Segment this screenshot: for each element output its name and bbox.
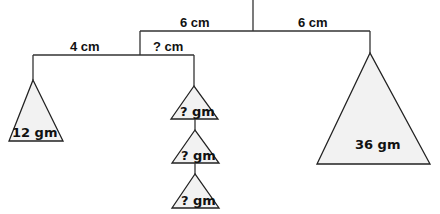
middle-weight-1-label: ? gm (180, 104, 215, 119)
lower-right-arm-label: ? cm (153, 39, 183, 54)
right-weight-label: 36 gm (355, 137, 400, 152)
left-weight-label: 12 gm (12, 125, 57, 140)
top-left-arm-label: 6 cm (180, 15, 210, 30)
top-right-arm-label: 6 cm (298, 15, 328, 30)
middle-weight-2-label: ? gm (181, 148, 216, 163)
balance-mobile-diagram: 6 cm 6 cm 4 cm ? cm 12 gm ? gm ? gm ? gm… (0, 0, 440, 214)
lower-left-arm-label: 4 cm (70, 39, 100, 54)
middle-weight-3-label: ? gm (181, 193, 216, 208)
